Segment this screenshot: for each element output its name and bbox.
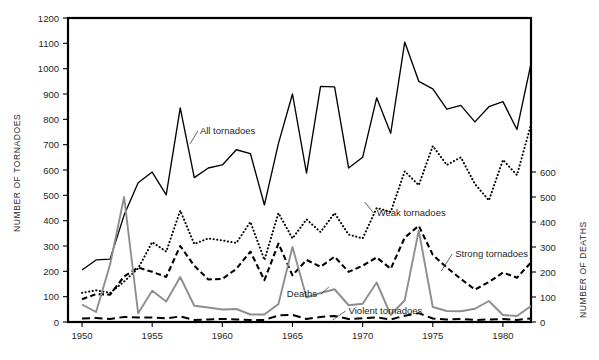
x-tick-label: 1970 <box>352 330 373 341</box>
y-left-tick-label: 900 <box>43 89 59 100</box>
y-right-tick-label: 200 <box>540 267 556 278</box>
y-left-tick-label: 600 <box>43 165 59 176</box>
x-tick-label: 1980 <box>492 330 513 341</box>
y-right-tick-label: 300 <box>540 242 556 253</box>
chart-canvas: 0100200300400500600700800900100011001200… <box>0 0 599 360</box>
x-tick-label: 1965 <box>282 330 303 341</box>
y-left-tick-label: 0 <box>54 317 59 328</box>
y-left-tick-label: 300 <box>43 241 59 252</box>
series-label-deaths: Deaths <box>287 288 317 299</box>
tornado-chart: 0100200300400500600700800900100011001200… <box>0 0 599 360</box>
x-tick-label: 1950 <box>71 330 92 341</box>
y-left-tick-label: 700 <box>43 139 59 150</box>
y-right-tick-label: 400 <box>540 217 556 228</box>
y-right-tick-label: 0 <box>540 317 545 328</box>
y-left-tick-label: 1200 <box>38 13 59 24</box>
x-tick-label: 1975 <box>422 330 443 341</box>
y-left-tick-label: 500 <box>43 190 59 201</box>
series-label-violent-tornadoes: Violent tornadoes <box>349 305 423 316</box>
y-right-tick-label: 100 <box>540 292 556 303</box>
series-label-all-tornadoes: All tornadoes <box>200 125 256 136</box>
series-label-weak-tornadoes: Weak tornadoes <box>377 207 446 218</box>
series-label-strong-tornadoes: Strong tornadoes <box>455 248 528 259</box>
y-right-tick-label: 500 <box>540 192 556 203</box>
y-left-tick-label: 1100 <box>39 38 59 49</box>
y-right-tick-label: 600 <box>540 167 556 178</box>
chart-background <box>0 0 599 360</box>
y-left-tick-label: 200 <box>43 266 59 277</box>
x-tick-label: 1960 <box>212 330 233 341</box>
y-left-tick-label: 1000 <box>38 63 59 74</box>
y-left-tick-label: 400 <box>43 215 59 226</box>
y-left-tick-label: 800 <box>43 114 59 125</box>
y-axis-left-title: NUMBER OF TORNADOES <box>12 114 22 232</box>
y-left-tick-label: 100 <box>43 291 59 302</box>
x-tick-label: 1955 <box>142 330 163 341</box>
y-axis-right-title: NUMBER OF DEATHS <box>578 221 588 318</box>
